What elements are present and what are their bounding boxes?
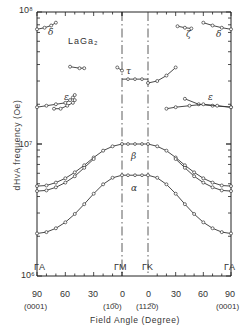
x-tick-30-left: 30 — [88, 290, 98, 299]
data-point — [156, 145, 159, 148]
data-point — [202, 103, 205, 106]
compound-label: LaGa₂ — [68, 37, 99, 46]
data-point — [216, 104, 219, 107]
data-point — [176, 25, 179, 28]
dhva-chart — [0, 0, 247, 329]
dir-label-k: (112̅0) — [136, 302, 159, 311]
data-point — [134, 174, 137, 177]
branch-label-beta: β — [131, 151, 136, 161]
series-line — [70, 67, 84, 69]
data-point — [83, 166, 86, 169]
data-point — [127, 174, 130, 177]
dir-label-left: (0001) — [24, 302, 47, 311]
branch-label-delta-left: δ — [48, 27, 53, 37]
data-point — [64, 221, 67, 224]
data-point — [211, 227, 214, 230]
data-point — [53, 107, 56, 110]
data-point — [174, 157, 177, 160]
data-point — [174, 66, 177, 69]
data-point — [92, 157, 95, 160]
data-point — [165, 149, 168, 152]
data-point — [127, 143, 130, 146]
data-point — [147, 174, 150, 177]
data-point — [66, 104, 69, 107]
data-point — [141, 78, 144, 81]
x-axis-title: Field Angle (Degree) — [90, 316, 180, 325]
data-point — [54, 181, 57, 184]
data-point — [54, 227, 57, 230]
data-point — [64, 177, 67, 180]
y-axis-title: dHvA frequency (Oe) — [12, 90, 22, 200]
data-point — [36, 232, 39, 235]
data-point — [43, 26, 46, 29]
data-point — [188, 104, 191, 107]
data-point — [211, 186, 214, 189]
data-point — [156, 80, 159, 83]
data-point — [36, 190, 39, 193]
data-point — [121, 143, 124, 146]
x-tick-90-left: 90 — [32, 290, 42, 299]
data-point — [54, 186, 57, 189]
data-point — [73, 94, 76, 97]
data-point — [202, 177, 205, 180]
data-point — [69, 99, 72, 102]
data-point — [92, 192, 95, 195]
data-point — [183, 166, 186, 169]
data-point — [230, 185, 233, 188]
data-point — [183, 203, 186, 206]
data-point — [134, 143, 137, 146]
data-point — [73, 175, 76, 178]
x-tick-60-left: 60 — [60, 290, 70, 299]
branch-label-epsilon-right: ε — [208, 92, 213, 102]
data-point — [193, 171, 196, 174]
dir-label-m: (10̅0) — [103, 302, 122, 311]
data-point — [54, 103, 57, 106]
data-point — [220, 184, 223, 187]
data-point — [111, 145, 114, 148]
data-point — [141, 174, 144, 177]
branch-label-epsilon-left: ε — [64, 92, 69, 102]
data-point — [165, 74, 168, 77]
data-point — [64, 181, 67, 184]
data-point — [174, 192, 177, 195]
data-point — [230, 106, 233, 109]
branch-label-alpha: α — [131, 183, 137, 193]
data-point — [193, 175, 196, 178]
data-point — [193, 212, 196, 215]
data-point — [59, 107, 62, 110]
sym-label-gm: ΓM — [114, 263, 126, 272]
data-point — [134, 78, 137, 81]
data-point — [230, 190, 233, 193]
sym-label-gk: ΓK — [142, 263, 153, 272]
data-point — [127, 78, 130, 81]
data-point — [83, 67, 86, 70]
series-line — [37, 175, 122, 233]
data-point — [102, 183, 105, 186]
data-point — [183, 97, 186, 100]
data-point — [202, 181, 205, 184]
data-point — [165, 183, 168, 186]
data-point — [45, 104, 48, 107]
data-point — [121, 174, 124, 177]
data-point — [121, 69, 124, 72]
data-point — [211, 24, 214, 27]
data-point — [73, 99, 76, 102]
branch-label-tau: τ — [126, 66, 131, 76]
data-point — [230, 232, 233, 235]
data-point — [54, 21, 57, 24]
data-point — [211, 181, 214, 184]
data-point — [147, 143, 150, 146]
series-line — [148, 68, 176, 84]
x-tick-30-right: 30 — [171, 290, 181, 299]
data-point — [69, 65, 72, 68]
series-line — [148, 175, 231, 233]
data-point — [45, 184, 48, 187]
sym-label-ga-right: ΓA — [224, 263, 235, 272]
data-point — [156, 176, 159, 179]
y-tick-1e8: 10⁸ — [19, 6, 33, 15]
data-point — [45, 231, 48, 234]
data-point — [102, 149, 105, 152]
data-point — [116, 66, 119, 69]
data-point — [220, 189, 223, 192]
data-point — [111, 176, 114, 179]
